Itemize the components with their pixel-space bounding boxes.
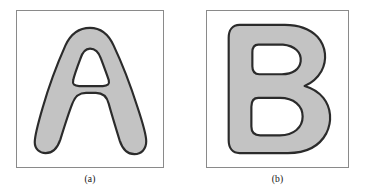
shape-b-svg (207, 11, 348, 167)
letter-b-lower-counter-path (251, 98, 302, 135)
shape-a-svg (17, 11, 163, 167)
letter-a-outer-path (35, 28, 146, 154)
panel-a (16, 10, 164, 168)
caption-b: (b) (206, 173, 349, 185)
figure-container: (a) (b) (0, 0, 367, 193)
letter-a-shape (35, 28, 146, 154)
letter-b-shape (229, 25, 330, 153)
caption-a: (a) (16, 173, 164, 185)
panel-b (206, 10, 349, 168)
letter-b-upper-counter-path (252, 45, 300, 75)
